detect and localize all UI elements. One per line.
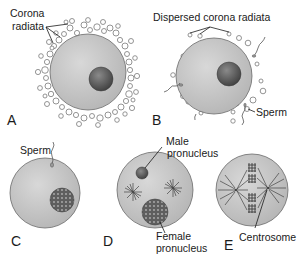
sperm-label-c: Sperm [20, 144, 51, 156]
fertilization-diagram: Corona radiata A [0, 0, 301, 259]
male-pronucleus-label-1: Male [166, 135, 189, 147]
centrosome-label: Centrosome [239, 231, 296, 243]
oocyte-nucleus-chromatin [50, 188, 74, 212]
panel-c: Sperm C [10, 142, 80, 249]
panel-letter-a: A [7, 112, 17, 128]
panel-d: Male pronucleus Female pronucleus D [103, 135, 218, 254]
oocyte-nucleus [217, 62, 241, 86]
female-pronucleus-label-1: Female [156, 230, 191, 242]
svg-text:Corona: Corona [10, 7, 45, 19]
panel-a: Corona radiata A [7, 7, 140, 128]
oocyte-nucleus [89, 67, 113, 91]
panel-b: Dispersed corona radiata Sperm B [152, 11, 287, 128]
sperm-head [50, 163, 53, 167]
panel-letter-d: D [103, 233, 113, 249]
female-pronucleus [142, 199, 168, 225]
panel-letter-c: C [11, 233, 21, 249]
leader-lines [190, 27, 229, 34]
panel-e: Centrosome E [216, 154, 296, 253]
panel-letter-b: B [152, 112, 161, 128]
svg-text:radiata: radiata [12, 20, 44, 32]
female-pronucleus-label-2: pronucleus [156, 242, 207, 254]
oocyte-cell [50, 34, 126, 110]
dispersed-corona-label: Dispersed corona radiata [153, 11, 270, 23]
male-pronucleus-label-2: pronucleus [167, 147, 218, 159]
sperm-label-b: Sperm [256, 106, 287, 118]
panel-letter-e: E [224, 237, 233, 253]
male-pronucleus [136, 167, 148, 179]
